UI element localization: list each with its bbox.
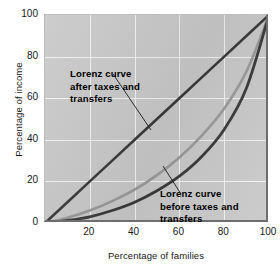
x-tick-label-40: 40	[119, 226, 149, 237]
x-tick-label-100: 100	[253, 226, 280, 237]
y-tick-label-100: 100	[12, 8, 38, 19]
annotation-after-taxes: Lorenz curve after taxes and transfers	[70, 68, 140, 106]
y-tick-label-0: 0	[12, 216, 38, 227]
x-tick-label-80: 80	[208, 226, 238, 237]
annotation-before-line-1: Lorenz curve	[160, 188, 239, 201]
y-tick-label-60: 60	[12, 91, 38, 102]
annotation-after-line-3: transfers	[70, 93, 140, 106]
x-axis-title: Percentage of families	[44, 250, 268, 261]
lorenz-curve-chart: Percentage of income 100 80 60 40 20 0 2…	[0, 0, 280, 272]
x-tick-label-20: 20	[74, 226, 104, 237]
annotation-after-line-2: after taxes and	[70, 81, 140, 94]
annotation-after-line-1: Lorenz curve	[70, 68, 140, 81]
y-tick-label-40: 40	[12, 133, 38, 144]
y-tick-label-20: 20	[12, 174, 38, 185]
x-tick-label-60: 60	[163, 226, 193, 237]
annotation-before-line-3: transfers	[160, 213, 239, 226]
annotation-before-line-2: before taxes and	[160, 201, 239, 214]
y-tick-label-80: 80	[12, 50, 38, 61]
annotation-before-taxes: Lorenz curve before taxes and transfers	[160, 188, 239, 226]
